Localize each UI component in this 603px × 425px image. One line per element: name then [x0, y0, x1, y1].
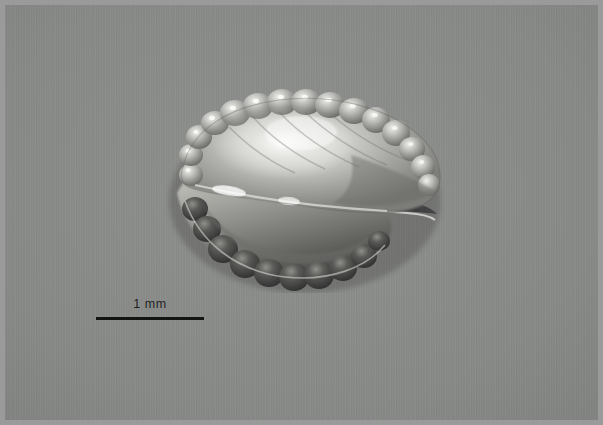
scale-bar-line — [96, 317, 204, 320]
scale-bar-label: 1 mm — [96, 297, 204, 312]
specimen-body — [155, 81, 447, 293]
scale-bar: 1 mm — [96, 297, 204, 320]
specimen-macrograph-figure: 1 mm — [0, 0, 603, 425]
photo-plate: 1 mm — [5, 5, 598, 420]
photo-frame: 1 mm — [0, 0, 603, 425]
